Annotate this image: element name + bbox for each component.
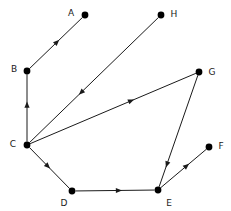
graph-diagram: ABCDEFGH	[0, 0, 231, 211]
arrowhead-d-e	[116, 188, 122, 193]
node-h[interactable]	[158, 12, 165, 19]
edge-g-e	[159, 75, 198, 187]
node-label-b: B	[11, 64, 17, 74]
arrowhead-g-e	[165, 161, 170, 168]
edge-e-f	[161, 149, 207, 188]
edge-d-e	[75, 190, 154, 191]
arrowhead-c-b	[24, 102, 29, 108]
node-g[interactable]	[196, 69, 203, 76]
node-a[interactable]	[82, 12, 89, 19]
node-label-d: D	[61, 198, 68, 208]
node-label-a: A	[68, 8, 75, 18]
edge-h-c	[29, 17, 158, 142]
edges-layer	[27, 17, 206, 191]
node-b[interactable]	[24, 68, 31, 75]
edge-c-g	[30, 73, 196, 143]
node-f[interactable]	[206, 144, 213, 151]
node-labels-layer: ABCDEFGH	[10, 8, 224, 208]
arrowheads-layer	[24, 40, 189, 193]
node-label-e: E	[166, 198, 172, 208]
node-e[interactable]	[155, 187, 162, 194]
node-c[interactable]	[24, 142, 31, 149]
node-label-f: F	[218, 141, 223, 151]
node-d[interactable]	[69, 188, 76, 195]
node-label-g: G	[209, 67, 216, 77]
node-label-h: H	[171, 9, 178, 19]
node-label-c: C	[10, 139, 16, 149]
graph-canvas: ABCDEFGH	[0, 0, 231, 211]
